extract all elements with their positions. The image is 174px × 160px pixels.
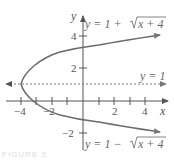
- figure-caption: FIGURE 5: [2, 150, 47, 159]
- asymptote-equation-label: y = 1: [139, 69, 165, 83]
- y-axis: [79, 16, 87, 150]
- upper-equation-prefix: y = 1 +: [84, 17, 122, 31]
- x-tick-label: 4: [142, 105, 148, 117]
- dashed-line-left-arrow-icon: [5, 81, 12, 87]
- y-tick-label: 4: [71, 30, 77, 42]
- y-axis-label: y: [70, 9, 77, 23]
- x-tick-label: −4: [14, 105, 26, 117]
- upper-equation-label: y = 1 + x + 4: [84, 17, 166, 31]
- upper-equation-radicand: x + 4: [137, 17, 163, 31]
- graph: −4 −2 2 4 x 4 2 −2 y y = 1 + x + 4 y = 1…: [0, 0, 174, 160]
- lower-equation-label: y = 1 − x + 4: [84, 137, 166, 151]
- x-tick-label: −2: [43, 105, 55, 117]
- lower-equation-radicand: x + 4: [137, 137, 163, 151]
- x-tick-label: 2: [112, 105, 118, 117]
- y-tick-label: 2: [71, 62, 77, 74]
- y-tick-label: −2: [62, 127, 74, 139]
- lower-equation-prefix: y = 1 −: [84, 137, 122, 151]
- lower-curve: [21, 84, 160, 132]
- x-axis-label: x: [159, 104, 166, 118]
